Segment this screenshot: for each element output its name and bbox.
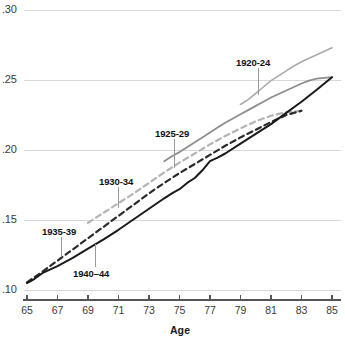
- series-line-1925-29: [164, 77, 332, 161]
- x-tick-label-79: 79: [235, 305, 247, 316]
- series-label-1925-29: 1925-29: [155, 129, 189, 139]
- y-tick-label-.20: .20: [2, 144, 17, 155]
- x-axis-ticks: [27, 295, 332, 300]
- series-label-1935-39: 1935-39: [42, 227, 76, 237]
- series-line-1930-34: [88, 111, 302, 223]
- series-label-1930-34: 1930-34: [99, 177, 133, 187]
- x-tick-label-75: 75: [174, 305, 186, 316]
- x-tick-label-67: 67: [52, 305, 64, 316]
- y-tick-label-.10: .10: [2, 284, 17, 295]
- chart-plot-area: [0, 0, 345, 342]
- x-tick-label-77: 77: [204, 305, 216, 316]
- y-tick-label-.30: .30: [2, 4, 17, 15]
- series-lines: [27, 48, 332, 283]
- x-axis-title: Age: [170, 324, 190, 336]
- y-tick-label-.15: .15: [2, 214, 17, 225]
- series-line-1940-44: [27, 77, 332, 283]
- y-tick-label-.25: .25: [2, 74, 17, 85]
- x-tick-label-85: 85: [326, 305, 338, 316]
- x-tick-label-73: 73: [143, 305, 155, 316]
- chart-container: .10.15.20.25.30 6567697173757779818385 1…: [0, 0, 345, 342]
- x-tick-label-83: 83: [296, 305, 308, 316]
- series-label-1940–44: 1940–44: [73, 269, 109, 279]
- series-label-1920-24: 1920-24: [236, 58, 270, 68]
- x-tick-label-71: 71: [113, 305, 125, 316]
- x-tick-label-65: 65: [21, 305, 33, 316]
- x-tick-label-69: 69: [82, 305, 94, 316]
- x-tick-label-81: 81: [265, 305, 277, 316]
